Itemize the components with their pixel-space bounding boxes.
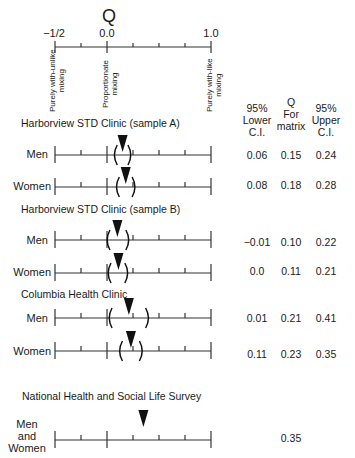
q-estimate-marker-icon bbox=[138, 410, 148, 427]
q-estimate-marker-icon bbox=[118, 135, 128, 152]
q-estimate-marker-icon bbox=[113, 253, 123, 270]
q-estimate-marker-icon bbox=[121, 167, 131, 184]
q-estimate-marker-icon bbox=[126, 331, 136, 348]
q-estimate-marker-icon bbox=[112, 220, 122, 237]
forest-plot-graphics bbox=[0, 0, 355, 458]
q-estimate-marker-icon bbox=[124, 298, 134, 315]
